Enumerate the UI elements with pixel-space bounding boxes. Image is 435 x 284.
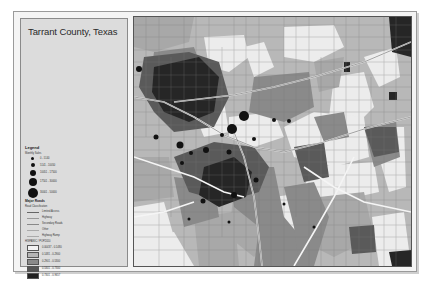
road-label-2: Highway bbox=[42, 216, 52, 219]
sales-symbol-3 bbox=[30, 170, 36, 176]
road-label-5: Highway Ramp bbox=[42, 234, 60, 237]
sales-symbol-2 bbox=[31, 163, 35, 167]
road-symbol-secondary bbox=[27, 224, 39, 225]
pop-title: HISPANIC / POP2010 bbox=[25, 240, 50, 243]
legend-heading: Legend bbox=[25, 146, 39, 149]
road-label-3: Secondary Roads bbox=[42, 222, 63, 225]
pop-swatch-2 bbox=[27, 252, 39, 258]
pop-label-3: 0.2901 - 0.5300 bbox=[42, 260, 60, 263]
road-label-4: Other bbox=[42, 228, 49, 231]
pop-label-4: 0.5301 - 0.7300 bbox=[42, 267, 60, 270]
pop-swatch-3 bbox=[27, 259, 39, 265]
pop-swatch-5 bbox=[27, 273, 39, 279]
pop-label-5: 0.7301 - 0.9657 bbox=[42, 274, 60, 277]
sales-label-2: 5141 - 10050 bbox=[40, 164, 55, 167]
road-symbol-other bbox=[27, 230, 39, 231]
roads-subtitle: Road Classification bbox=[25, 205, 47, 208]
sales-label-3: 10051 - 17500 bbox=[40, 171, 57, 174]
map-canvas[interactable] bbox=[133, 16, 412, 267]
sales-label-5: 30001 - 50000 bbox=[40, 191, 57, 194]
pop-label-2: 0.1481 - 0.2900 bbox=[42, 253, 60, 256]
sales-title: Monthly Sales bbox=[25, 152, 41, 155]
sales-label-1: 0 - 5140 bbox=[40, 157, 50, 160]
map-title: Tarrant County, Texas bbox=[28, 26, 117, 37]
pop-swatch-1 bbox=[27, 245, 39, 251]
sales-symbol-5 bbox=[28, 188, 38, 198]
sales-symbol-4 bbox=[29, 178, 37, 186]
sales-symbol-1 bbox=[31, 157, 34, 160]
road-symbol-limited-access bbox=[27, 212, 39, 213]
sales-label-4: 17501 - 30000 bbox=[40, 180, 57, 183]
pop-label-1: 0.00437 - 0.1480 bbox=[42, 246, 62, 249]
road-symbol-ramp bbox=[27, 236, 39, 237]
road-label-1: Limited Access bbox=[42, 210, 59, 213]
legend-panel: Tarrant County, Texas Legend Monthly Sal… bbox=[20, 18, 128, 267]
choropleth-map bbox=[134, 17, 411, 266]
roads-title: Major Roads bbox=[25, 200, 45, 203]
pop-swatch-4 bbox=[27, 266, 39, 272]
road-symbol-highway bbox=[27, 218, 39, 219]
